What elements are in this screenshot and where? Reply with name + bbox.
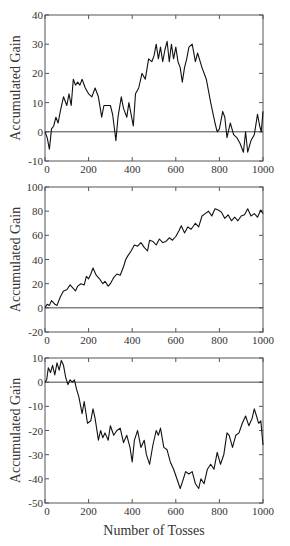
y-tick-label: -10 [28,155,43,167]
y-tick-label: 0 [38,126,44,138]
y-tick-label: -20 [28,425,43,437]
y-tick-label: 10 [32,97,44,109]
x-tick-label: 800 [211,334,228,346]
x-tick-label: 200 [80,334,97,346]
y-axis-label: Accumulated Gain [8,378,23,483]
y-tick-label: 0 [38,302,44,314]
y-axis-label: Accumulated Gain [8,35,23,140]
chart-panel-3: -50-40-30-20-1001002004006008001000Accum… [8,352,275,538]
y-tick-label: 30 [32,38,44,50]
y-axis-label: Accumulated Gain [8,207,23,312]
y-tick-label: 0 [38,376,44,388]
y-tick-label: 20 [32,67,44,79]
x-tick-label: 400 [124,505,141,517]
x-tick-label: 200 [80,163,97,175]
y-tick-label: 80 [32,205,44,217]
series-line-1 [45,41,263,152]
y-tick-label: -20 [28,326,43,338]
x-tick-label: 800 [211,163,228,175]
series-line-1 [45,360,263,488]
y-tick-label: 10 [32,352,44,364]
x-tick-label: 200 [80,505,97,517]
x-tick-label: 0 [44,163,50,175]
y-tick-label: 40 [32,254,44,266]
x-tick-label: 600 [168,334,185,346]
y-tick-label: 60 [32,229,44,241]
chart-panel-2: -2002040608010002004006008001000Accumula… [8,181,275,346]
x-tick-label: 600 [168,505,185,517]
y-tick-label: 40 [32,9,44,21]
x-axis-label: Number of Tosses [103,523,204,538]
y-tick-label: 100 [27,181,44,193]
y-tick-label: -50 [28,497,43,509]
x-tick-label: 0 [44,334,50,346]
x-tick-label: 600 [168,163,185,175]
x-tick-label: 800 [211,505,228,517]
chart-panel-1: -1001020304002004006008001000Accumulated… [8,9,275,175]
x-tick-label: 400 [124,163,141,175]
x-tick-label: 1000 [252,163,275,175]
x-tick-label: 400 [124,334,141,346]
y-tick-label: -40 [28,473,43,485]
random-walk-figure: -1001020304002004006008001000Accumulated… [0,0,290,546]
plot-frame [45,187,263,332]
y-tick-label: 20 [32,278,44,290]
x-tick-label: 1000 [252,334,275,346]
x-tick-label: 1000 [252,505,275,517]
y-tick-label: -30 [28,449,43,461]
plot-frame [45,358,263,503]
y-tick-label: -10 [28,400,43,412]
plot-frame [45,15,263,161]
x-tick-label: 0 [44,505,50,517]
series-line-1 [45,209,263,308]
